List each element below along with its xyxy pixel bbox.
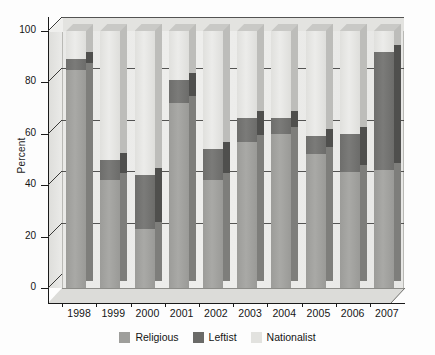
bar-segment-side-religious-2004 — [291, 127, 298, 281]
x-axis-tick — [336, 303, 337, 307]
x-axis-label-2007: 2007 — [364, 307, 410, 319]
bar-segment-religious-2003[interactable] — [237, 142, 257, 288]
bar-segment-nationalist-1999[interactable] — [100, 31, 120, 160]
bar-segment-nationalist-2003[interactable] — [237, 31, 257, 118]
bar-segment-side-religious-2002 — [223, 173, 230, 281]
legend-swatch-religious — [119, 332, 130, 343]
x-axis-line — [48, 303, 405, 304]
bar-segment-side-religious-1999 — [120, 173, 127, 281]
y-axis-label: 100 — [6, 24, 36, 35]
bar-segment-side-religious-2000 — [155, 222, 162, 281]
x-axis-tick — [199, 303, 200, 307]
bar-segment-leftist-2000[interactable] — [135, 175, 155, 229]
chart-legend: ReligiousLeftistNationalist — [0, 331, 435, 343]
x-axis-tick — [165, 303, 166, 307]
bar-segment-religious-2000[interactable] — [135, 229, 155, 288]
bar-segment-leftist-2007[interactable] — [374, 52, 394, 170]
bar-segment-side-leftist-2000 — [155, 168, 162, 222]
bar-segment-side-nationalist-2000 — [155, 24, 162, 168]
bar-segment-nationalist-2006[interactable] — [340, 31, 360, 134]
bar-segment-nationalist-2004[interactable] — [271, 31, 291, 118]
y-axis-label: 20 — [6, 230, 36, 241]
bar-segment-side-religious-2006 — [360, 165, 367, 281]
legend-item-religious[interactable]: Religious — [119, 331, 178, 343]
bar-segment-side-leftist-2006 — [360, 127, 367, 166]
y-axis-label: 0 — [6, 281, 36, 292]
bar-segment-side-leftist-1999 — [120, 153, 127, 174]
bar-group — [62, 17, 404, 303]
bar-segment-religious-1999[interactable] — [100, 180, 120, 288]
bar-segment-leftist-2004[interactable] — [271, 118, 291, 133]
bar-segment-side-religious-2001 — [189, 96, 196, 281]
bar-segment-side-leftist-2007 — [394, 45, 401, 163]
bar-segment-religious-2004[interactable] — [271, 134, 291, 288]
bar-segment-nationalist-2001[interactable] — [169, 31, 189, 80]
bar-segment-side-nationalist-2003 — [257, 24, 264, 111]
bar-segment-side-nationalist-1999 — [120, 24, 127, 153]
bar-segment-side-nationalist-2001 — [189, 24, 196, 73]
bar-segment-leftist-2001[interactable] — [169, 80, 189, 103]
bar-segment-side-nationalist-2002 — [223, 24, 230, 142]
legend-label-nationalist: Nationalist — [267, 331, 316, 343]
x-axis-tick — [302, 303, 303, 307]
bar-segment-side-nationalist-2005 — [326, 24, 333, 129]
bar-segment-religious-1998[interactable] — [66, 70, 86, 288]
bar-segment-side-religious-2003 — [257, 135, 264, 281]
bar-segment-nationalist-2000[interactable] — [135, 31, 155, 175]
y-axis-label: 80 — [6, 75, 36, 86]
x-axis-tick — [96, 303, 97, 307]
bar-segment-leftist-2005[interactable] — [306, 136, 326, 154]
bar-segment-side-religious-2007 — [394, 163, 401, 281]
x-axis-tick — [370, 303, 371, 307]
plot-area: 020406080100 199819992000200120022003200… — [0, 0, 435, 355]
bar-segment-leftist-1999[interactable] — [100, 160, 120, 181]
bar-segment-nationalist-1998[interactable] — [66, 31, 86, 59]
legend-item-nationalist[interactable]: Nationalist — [251, 331, 316, 343]
bar-segment-side-leftist-2004 — [291, 111, 298, 126]
x-axis-tick — [233, 303, 234, 307]
bar-segment-religious-2001[interactable] — [169, 103, 189, 288]
bar-segment-nationalist-2002[interactable] — [203, 31, 223, 149]
bar-segment-leftist-2003[interactable] — [237, 118, 257, 141]
bar-segment-religious-2002[interactable] — [203, 180, 223, 288]
bar-segment-side-leftist-2003 — [257, 111, 264, 134]
legend-label-religious: Religious — [135, 331, 178, 343]
bar-segment-religious-2007[interactable] — [374, 170, 394, 288]
bar-segment-side-leftist-1998 — [86, 52, 93, 62]
bar-segment-leftist-2002[interactable] — [203, 149, 223, 180]
bar-segment-side-nationalist-2006 — [360, 24, 367, 127]
bar-segment-side-nationalist-2004 — [291, 24, 298, 111]
legend-label-leftist: Leftist — [209, 331, 237, 343]
bar-segment-nationalist-2007[interactable] — [374, 31, 394, 52]
y-axis-title: Percent — [16, 116, 27, 196]
bar-segment-religious-2005[interactable] — [306, 154, 326, 288]
bar-segment-leftist-1998[interactable] — [66, 59, 86, 69]
legend-item-leftist[interactable]: Leftist — [193, 331, 237, 343]
legend-swatch-leftist — [193, 332, 204, 343]
bar-segment-side-religious-1998 — [86, 63, 93, 281]
bar-segment-side-religious-2005 — [326, 147, 333, 281]
bar-segment-side-leftist-2002 — [223, 142, 230, 173]
bar-segment-leftist-2006[interactable] — [340, 134, 360, 173]
y-axis-line — [48, 17, 49, 303]
bar-segment-religious-2006[interactable] — [340, 172, 360, 288]
legend-swatch-nationalist — [251, 332, 262, 343]
bar-segment-nationalist-2005[interactable] — [306, 31, 326, 136]
chart-figure: 020406080100 199819992000200120022003200… — [0, 0, 435, 355]
x-axis-tick — [131, 303, 132, 307]
x-axis-tick — [62, 303, 63, 307]
bar-segment-side-leftist-2001 — [189, 73, 196, 96]
bar-segment-side-leftist-2005 — [326, 129, 333, 147]
x-axis-tick — [267, 303, 268, 307]
